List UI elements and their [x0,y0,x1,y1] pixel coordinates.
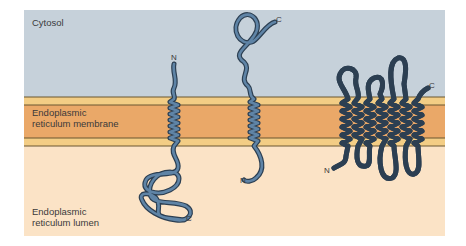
membrane-label: Endoplasmic reticulum membrane [32,107,119,129]
er-membrane-diagram: Cytosol Endoplasmic reticulum membrane E… [0,0,466,246]
cytosol-label: Cytosol [32,17,64,28]
protein3-c-terminus: C [429,81,435,90]
protein1-c-terminus: C [186,214,192,223]
membrane-label-line1: Endoplasmic [32,107,119,118]
membrane-label-line2: reticulum membrane [32,118,119,129]
lumen-label-line1: Endoplasmic [32,206,99,217]
protein2-c-terminus: C [276,15,282,24]
protein1-n-terminus: N [171,53,177,62]
protein2-n-terminus: N [240,176,246,185]
lumen-label-line2: reticulum lumen [32,217,99,228]
lumen-label: Endoplasmic reticulum lumen [32,206,99,228]
protein3-n-terminus: N [324,166,330,175]
